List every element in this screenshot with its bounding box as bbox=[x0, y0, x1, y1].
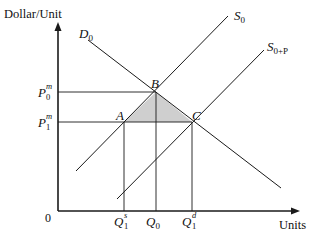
supply-label: S0 bbox=[234, 8, 246, 25]
point-c-label: C bbox=[192, 108, 201, 123]
supply-shifted-label: S0+P bbox=[267, 39, 288, 56]
point-a-label: A bbox=[115, 108, 124, 123]
demand-label: D0 bbox=[78, 26, 93, 43]
x-axis-arrow-icon bbox=[291, 208, 300, 215]
point-b-label: B bbox=[151, 76, 159, 91]
p1-label: P bbox=[37, 115, 46, 130]
supply-demand-diagram: Dollar/Unit Units 0 D0 S0 S0+P P m 0 P m… bbox=[0, 0, 316, 237]
q0-label: Q0 bbox=[146, 214, 160, 231]
supply-curve bbox=[76, 16, 228, 171]
welfare-triangle bbox=[124, 92, 192, 122]
p0-superscript: m bbox=[46, 81, 52, 91]
p1-subscript: 1 bbox=[46, 122, 50, 132]
q1d-label: Q bbox=[182, 214, 192, 229]
x-axis-title: Units bbox=[279, 218, 306, 232]
q1s-label: Q bbox=[114, 214, 124, 229]
p0-subscript: 0 bbox=[46, 92, 50, 102]
p1-superscript: m bbox=[46, 111, 52, 121]
supply-shifted-curve bbox=[117, 50, 264, 199]
y-axis-title: Dollar/Unit bbox=[4, 7, 62, 21]
q1d-subscript: 1 bbox=[192, 221, 196, 231]
p0-label: P bbox=[37, 85, 46, 100]
q1s-subscript: 1 bbox=[124, 221, 128, 231]
origin-label: 0 bbox=[45, 211, 51, 225]
y-axis-arrow-icon bbox=[55, 22, 62, 31]
